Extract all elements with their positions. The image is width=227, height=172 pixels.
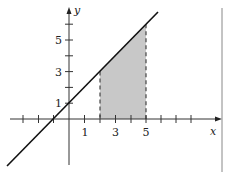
y-tick-label-3: 3 [55, 66, 62, 79]
x-tick-label-3: 3 [112, 126, 119, 139]
x-tick-label-5: 5 [143, 126, 150, 139]
x-tick-label-1: 1 [82, 126, 89, 139]
shaded-area [100, 24, 146, 119]
graph-figure: 1 3 5 1 3 5 x y [0, 0, 227, 172]
x-axis-label: x [210, 125, 217, 138]
y-axis-label: y [73, 4, 81, 17]
x-axis-arrow-icon [215, 117, 222, 122]
y-axis-arrow-icon [67, 7, 72, 14]
y-tick-label-1: 1 [55, 97, 62, 110]
y-tick-label-5: 5 [55, 34, 62, 47]
